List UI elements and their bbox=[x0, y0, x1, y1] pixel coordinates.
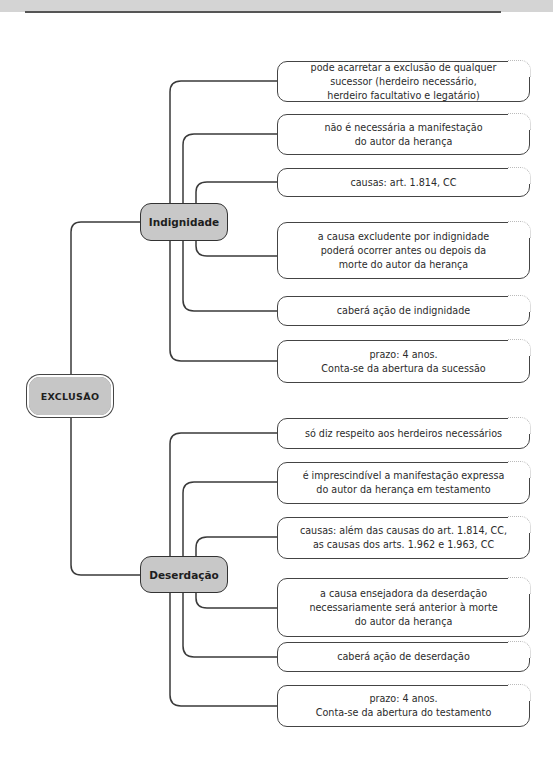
leaf-text: caberá ação de indignidade bbox=[337, 304, 470, 318]
leaf-node[interactable]: prazo: 4 anos. Conta-se da abertura do t… bbox=[277, 685, 530, 727]
leaf-node[interactable]: a causa ensejadora da deserdação necessa… bbox=[277, 578, 530, 637]
branch-label: Deserdação bbox=[149, 569, 219, 581]
leaf-text: é imprescindível a manifestação expressa… bbox=[303, 469, 505, 497]
leaf-text: causas: art. 1.814, CC bbox=[350, 176, 456, 190]
leaf-node[interactable]: caberá ação de indignidade bbox=[277, 296, 530, 326]
leaf-text: prazo: 4 anos. Conta-se da abertura da s… bbox=[321, 348, 485, 376]
leaf-node[interactable]: a causa excludente por indignidade poder… bbox=[277, 222, 530, 279]
leaf-text: prazo: 4 anos. Conta-se da abertura do t… bbox=[316, 692, 492, 720]
branch-label: Indignidade bbox=[149, 216, 219, 228]
leaf-node[interactable]: causas: art. 1.814, CC bbox=[277, 168, 530, 197]
leaf-text: caberá ação de deserdação bbox=[337, 650, 470, 664]
leaf-node[interactable]: caberá ação de deserdação bbox=[277, 642, 530, 672]
leaf-text: só diz respeito aos herdeiros necessário… bbox=[305, 427, 502, 441]
leaf-node[interactable]: não é necessária a manifestação do autor… bbox=[277, 114, 530, 155]
leaf-text: a causa excludente por indignidade poder… bbox=[318, 230, 489, 272]
branch-node-deserdacao[interactable]: Deserdação bbox=[140, 556, 228, 593]
branch-node-indignidade[interactable]: Indignidade bbox=[140, 203, 228, 241]
leaf-text: não é necessária a manifestação do autor… bbox=[324, 121, 482, 149]
leaf-text: a causa ensejadora da deserdação necessa… bbox=[309, 587, 497, 629]
leaf-node[interactable]: pode acarretar a exclusão de qualquer su… bbox=[277, 61, 530, 102]
root-label: EXCLUSÃO bbox=[41, 391, 100, 402]
leaf-node[interactable]: é imprescindível a manifestação expressa… bbox=[277, 462, 530, 504]
leaf-node[interactable]: causas: além das causas do art. 1.814, C… bbox=[277, 517, 530, 559]
root-node-exclusao[interactable]: EXCLUSÃO bbox=[29, 377, 111, 415]
leaf-text: causas: além das causas do art. 1.814, C… bbox=[300, 524, 507, 552]
leaf-node[interactable]: só diz respeito aos herdeiros necessário… bbox=[277, 418, 530, 449]
leaf-text: pode acarretar a exclusão de qualquer su… bbox=[311, 61, 497, 103]
leaf-node[interactable]: prazo: 4 anos. Conta-se da abertura da s… bbox=[277, 340, 530, 383]
